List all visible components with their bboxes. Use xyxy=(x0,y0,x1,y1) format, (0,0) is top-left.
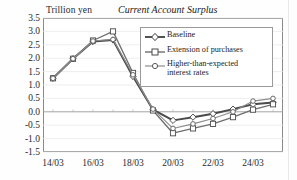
y-tick-label: 1.0 xyxy=(6,80,40,90)
data-point-circle xyxy=(211,116,216,121)
x-tick-label: 18/03 xyxy=(122,158,144,168)
legend-marker-diamond-icon xyxy=(145,32,165,42)
y-tick-label: -1.5 xyxy=(6,147,40,157)
legend-item-baseline: Baseline xyxy=(145,31,269,42)
data-point-circle xyxy=(131,73,136,78)
data-point-square xyxy=(270,102,275,107)
data-point-square xyxy=(230,115,235,120)
data-point-square xyxy=(210,121,215,126)
data-point-circle xyxy=(51,76,56,81)
legend-label-baseline: Baseline xyxy=(167,31,195,40)
data-point-circle xyxy=(251,99,256,104)
data-point-circle xyxy=(191,122,196,127)
legend-marker-square-icon xyxy=(145,47,165,57)
right-margin-strip xyxy=(288,0,297,180)
y-axis-tick-labels: 3.53.02.52.01.51.00.50.0-0.5-1.0-1.5 xyxy=(2,0,40,180)
data-point-circle xyxy=(111,37,116,42)
data-point-square xyxy=(110,29,115,34)
y-tick-label: 2.5 xyxy=(6,40,40,50)
y-tick-label: 0.0 xyxy=(6,107,40,117)
x-tick-label: 14/03 xyxy=(42,158,64,168)
data-point-square xyxy=(250,107,255,112)
legend-marker-circle-icon xyxy=(145,61,165,71)
legend-label-extension: Extension of purchases xyxy=(167,46,243,55)
x-tick-label: 16/03 xyxy=(82,158,104,168)
y-tick-label: 3.0 xyxy=(6,26,40,36)
data-point-circle xyxy=(151,107,156,112)
y-axis-unit-label: Trillion yen xyxy=(46,5,92,15)
y-tick-label: 1.5 xyxy=(6,67,40,77)
legend-item-higher-rates: Higher-than-expected interest rates xyxy=(145,60,269,77)
x-tick-label: 20/03 xyxy=(162,158,184,168)
legend-label-higher-rates: Higher-than-expected interest rates xyxy=(167,60,238,77)
y-tick-label: 3.5 xyxy=(6,13,40,23)
data-point-circle xyxy=(231,110,236,115)
y-tick-label: -0.5 xyxy=(6,120,40,130)
x-tick-label: 22/03 xyxy=(202,158,224,168)
x-tick-label: 24/03 xyxy=(242,158,264,168)
data-point-diamond xyxy=(190,114,196,120)
data-point-square xyxy=(170,131,175,136)
y-tick-label: 0.5 xyxy=(6,93,40,103)
data-point-circle xyxy=(71,56,76,61)
chart-title: Current Account Surplus xyxy=(118,4,217,15)
y-tick-label: -1.0 xyxy=(6,134,40,144)
y-tick-label: 2.0 xyxy=(6,53,40,63)
data-point-circle xyxy=(171,126,176,131)
data-point-circle xyxy=(91,39,96,44)
chart-legend: Baseline Extension of purchases Higher-t… xyxy=(140,27,273,87)
data-point-circle xyxy=(271,96,276,101)
chart-container: Trillion yen Current Account Surplus 3.5… xyxy=(0,0,297,180)
legend-item-extension: Extension of purchases xyxy=(145,46,269,57)
